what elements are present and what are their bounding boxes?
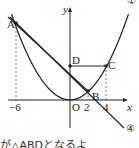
- tick-2: 2: [84, 102, 90, 113]
- point-c-label: C: [108, 60, 115, 71]
- point-b-label: B: [92, 91, 99, 102]
- y-axis-arrow-icon: [68, 7, 72, 12]
- y-axis-label: y: [63, 4, 68, 15]
- graph-canvas: [0, 0, 139, 148]
- curve-label: ①: [127, 0, 136, 6]
- point-a-label: A: [7, 19, 15, 30]
- tick-neg6: −6: [9, 102, 21, 113]
- point-b: [86, 89, 90, 93]
- tick-4: 4: [103, 102, 109, 113]
- origin-label: O: [72, 102, 80, 113]
- caption-text: が△ABDとなるよ: [0, 136, 87, 148]
- x-axis-label: x: [127, 102, 132, 113]
- point-d-label: D: [72, 55, 80, 66]
- line-label: ④: [126, 124, 135, 134]
